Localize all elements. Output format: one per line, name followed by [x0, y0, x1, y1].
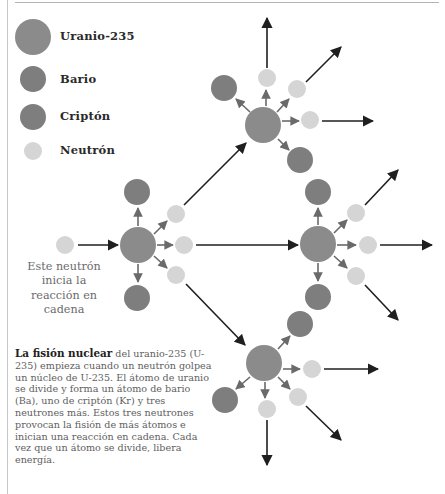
krypton-atom	[124, 285, 150, 311]
legend-krypton-icon	[20, 104, 46, 130]
barium-atom	[124, 179, 150, 205]
neutron	[258, 400, 276, 418]
arrow-top-diag	[306, 47, 341, 82]
neutron	[347, 204, 365, 222]
caption: La fisión nuclear del uranio-235 (U-235)…	[15, 348, 215, 466]
neutron	[303, 360, 321, 378]
start-note: Este neutrón inicia la reacción en caden…	[16, 260, 112, 317]
arrow-bottom-diag	[306, 406, 341, 440]
legend	[15, 19, 51, 160]
caption-body: del uranio-235 (U-235) empieza cuando un…	[15, 348, 211, 465]
initial-neutron	[56, 236, 74, 254]
neutron	[258, 69, 276, 87]
barium-atom	[211, 75, 237, 101]
legend-label-krypton: Criptón	[60, 109, 110, 123]
neutron	[167, 205, 185, 223]
uranium-atom	[245, 107, 281, 143]
legend-label-neutron: Neutrón	[60, 143, 115, 157]
neutron	[347, 267, 365, 285]
legend-label-uranium: Uranio-235	[60, 29, 135, 43]
krypton-atom	[305, 284, 331, 310]
arrow-right-up	[365, 170, 398, 205]
legend-uranium-icon	[15, 19, 51, 55]
krypton-atom	[212, 387, 238, 413]
barium-atom	[287, 311, 313, 337]
krypton-atom	[287, 147, 313, 173]
caption-title: La fisión nuclear	[15, 347, 112, 359]
neutron	[288, 80, 306, 98]
legend-barium-icon	[20, 66, 46, 92]
neutron	[167, 266, 185, 284]
legend-label-barium: Bario	[60, 72, 96, 86]
uranium-atom	[120, 227, 156, 263]
neutron	[289, 388, 307, 406]
legend-neutron-icon	[24, 142, 42, 160]
arrow-left-to-top	[184, 143, 246, 205]
neutron	[359, 236, 377, 254]
uranium-atom	[246, 345, 282, 381]
arrow-right-down	[365, 285, 398, 320]
neutron	[301, 111, 319, 129]
neutron	[175, 236, 193, 254]
arrow-left-to-bottom	[186, 284, 245, 345]
barium-atom	[305, 179, 331, 205]
uranium-atom	[300, 226, 336, 262]
